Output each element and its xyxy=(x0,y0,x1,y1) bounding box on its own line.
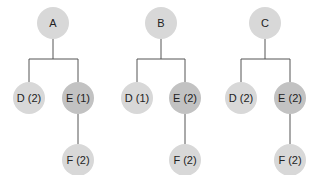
grandchild-node: F (2) xyxy=(274,144,306,175)
node-label: D (1) xyxy=(125,92,149,104)
tree-b: BD (1)E (2)F (2) xyxy=(121,7,201,175)
child-node: D (2) xyxy=(225,82,257,114)
root-node: A xyxy=(37,7,69,39)
tree-c: CD (2)E (2)F (2) xyxy=(225,7,306,175)
node-label: B xyxy=(157,17,164,29)
tree-diagram: AD (2)E (1)F (2)BD (1)E (2)F (2)CD (2)E … xyxy=(0,0,321,175)
child-node: E (1) xyxy=(62,82,94,114)
node-label: D (2) xyxy=(17,92,41,104)
node-label: F (2) xyxy=(278,154,301,166)
node-label: E (1) xyxy=(66,92,90,104)
tree-a: AD (2)E (1)F (2) xyxy=(13,7,94,175)
child-node: D (2) xyxy=(13,82,45,114)
node-label: E (2) xyxy=(173,92,197,104)
node-label: F (2) xyxy=(66,154,89,166)
child-node: D (1) xyxy=(121,82,153,114)
grandchild-node: F (2) xyxy=(169,144,201,175)
node-label: C xyxy=(261,17,269,29)
grandchild-node: F (2) xyxy=(62,144,94,175)
root-node: C xyxy=(249,7,281,39)
node-label: F (2) xyxy=(173,154,196,166)
node-label: D (2) xyxy=(229,92,253,104)
root-node: B xyxy=(145,7,177,39)
node-label: A xyxy=(49,17,57,29)
child-node: E (2) xyxy=(169,82,201,114)
node-label: E (2) xyxy=(278,92,302,104)
child-node: E (2) xyxy=(274,82,306,114)
